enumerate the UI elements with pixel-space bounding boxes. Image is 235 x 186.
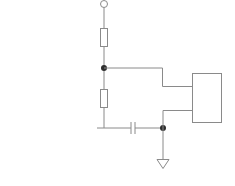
wire-node1-ic [104, 68, 192, 87]
wire-node2-ic [163, 111, 192, 129]
circuit-schematic [0, 0, 235, 186]
ic-block [193, 74, 222, 123]
ground-icon [157, 160, 169, 169]
open-terminal-icon [101, 1, 108, 8]
resistor-r1 [101, 29, 108, 47]
resistor-r2 [101, 90, 108, 108]
